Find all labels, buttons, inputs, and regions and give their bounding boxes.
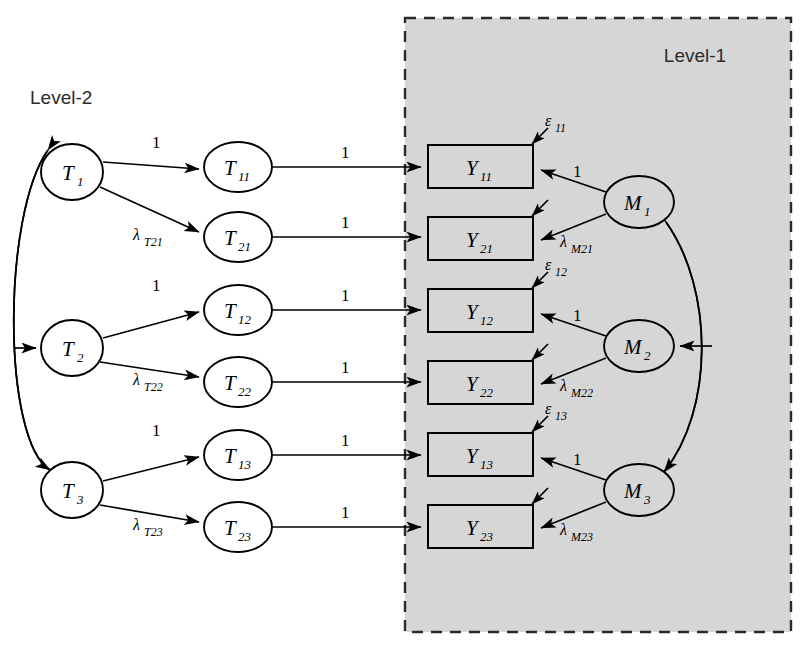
edge-label: 1 xyxy=(341,286,350,305)
level2-loading-arrows xyxy=(100,162,199,522)
node-sublabel: 12 xyxy=(480,313,494,328)
residual-label: ε xyxy=(545,256,552,273)
edge-sublabel: T22 xyxy=(144,380,163,394)
level2-label: Level-2 xyxy=(30,87,92,108)
edge-label: λ xyxy=(132,516,140,533)
node-sublabel: 13 xyxy=(238,457,252,472)
node-sublabel: 2 xyxy=(77,350,84,365)
node-sublabel: 22 xyxy=(238,384,252,399)
level2-indicator-nodes xyxy=(204,142,272,552)
edge-label: 1 xyxy=(341,358,350,377)
node-label: T xyxy=(62,161,75,185)
node-sublabel: 3 xyxy=(643,492,651,507)
indicator-node[interactable] xyxy=(204,502,272,552)
cross-level-labels: 1 1 1 1 1 1 xyxy=(341,143,350,522)
level2-structural-arc xyxy=(14,150,50,470)
edge-label: λ xyxy=(132,371,140,388)
residual-label: ε xyxy=(545,400,552,417)
edge-label: 1 xyxy=(152,133,161,152)
edge-sublabel: M22 xyxy=(570,386,593,400)
node-sublabel: 12 xyxy=(238,312,252,327)
edge-sublabel: M21 xyxy=(570,242,593,256)
edge-label: λ xyxy=(559,377,567,394)
node-label: T xyxy=(224,226,237,250)
node-sublabel: 21 xyxy=(480,241,493,256)
edge-label: 1 xyxy=(341,431,350,450)
edge-label: λ xyxy=(559,233,567,250)
edge-label: 1 xyxy=(341,503,350,522)
level2-latent-nodes xyxy=(41,144,103,518)
node-label: T xyxy=(224,156,237,180)
indicator-node[interactable] xyxy=(204,357,272,407)
node-label: M xyxy=(623,335,643,359)
node-label: T xyxy=(224,299,237,323)
node-sublabel: 2 xyxy=(644,348,651,363)
edge-sublabel: T23 xyxy=(144,525,163,539)
edge-sublabel: T21 xyxy=(144,235,163,249)
node-sublabel: 1 xyxy=(77,174,84,189)
edge-label: 1 xyxy=(573,306,582,325)
node-sublabel: 22 xyxy=(480,385,494,400)
indicator-node[interactable] xyxy=(204,142,272,192)
edge-label: 1 xyxy=(573,450,582,469)
node-sublabel: 23 xyxy=(480,529,494,544)
edge-label: λ xyxy=(132,226,140,243)
diagram-canvas: Level-2 Level-1 xyxy=(0,0,811,653)
residual-label: ε xyxy=(545,112,552,129)
residual-sublabel: 13 xyxy=(555,409,567,423)
residual-sublabel: 11 xyxy=(555,121,566,135)
edge-label: 1 xyxy=(341,143,350,162)
level2-loading-labels: 1 λ T21 1 λ T22 1 λ T23 xyxy=(132,133,163,539)
edge-sublabel: M23 xyxy=(570,530,593,544)
edge-label: 1 xyxy=(152,276,161,295)
node-label: T xyxy=(224,444,237,468)
node-label: T xyxy=(224,371,237,395)
node-sublabel: 11 xyxy=(238,169,250,184)
node-sublabel: 13 xyxy=(480,457,494,472)
node-sublabel: 21 xyxy=(238,239,251,254)
node-label: M xyxy=(623,479,643,503)
node-label: T xyxy=(224,516,237,540)
indicator-node[interactable] xyxy=(204,212,272,262)
residual-sublabel: 12 xyxy=(555,265,567,279)
edge-label: λ xyxy=(559,521,567,538)
edge-label: 1 xyxy=(341,213,350,232)
node-sublabel: 11 xyxy=(480,169,492,184)
node-sublabel: 1 xyxy=(644,204,651,219)
node-sublabel: 23 xyxy=(238,529,252,544)
node-label: M xyxy=(623,191,643,215)
node-label: T xyxy=(62,479,75,503)
indicator-node[interactable] xyxy=(204,285,272,335)
level1-label: Level-1 xyxy=(664,45,726,66)
edge-label: 1 xyxy=(152,421,161,440)
indicator-node[interactable] xyxy=(204,430,272,480)
node-sublabel: 3 xyxy=(76,492,84,507)
edge-label: 1 xyxy=(573,162,582,181)
node-label: T xyxy=(62,337,75,361)
